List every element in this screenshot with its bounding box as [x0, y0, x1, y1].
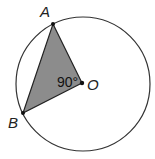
point-b [21, 111, 25, 115]
triangle-aob [23, 24, 82, 113]
label-b: B [8, 114, 18, 131]
label-o: O [87, 76, 99, 93]
point-o [80, 81, 84, 85]
point-a [51, 22, 55, 26]
angle-label: 90° [57, 74, 78, 90]
label-a: A [39, 3, 50, 20]
circle-diagram: A O B 90° [0, 0, 155, 159]
